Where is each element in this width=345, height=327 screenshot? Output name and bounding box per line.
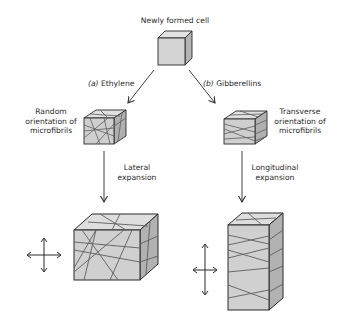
longitudinal-expansion-label: Longitudinal expansion [246, 163, 304, 182]
branch-a-prefix: (a) [88, 79, 99, 88]
diagram-canvas: Newly formed cell (a) Ethylene (b) Gibbe… [0, 0, 345, 327]
orientation-a-line-1: Random [20, 107, 82, 117]
orientation-a-line-3: microfibrils [20, 126, 82, 136]
newly-formed-cell-cube [158, 31, 192, 65]
orientation-b-line-2: orientation of [268, 117, 332, 127]
branch-b-treatment: Gibberellins [216, 79, 261, 88]
transverse-orientation-label: Transverse orientation of microfibrils [268, 107, 332, 136]
ethylene-branch-label: (a) Ethylene [88, 79, 134, 89]
orientation-b-line-1: Transverse [268, 107, 332, 117]
four-way-growth-arrows-icon [27, 238, 61, 272]
orientation-a-line-2: orientation of [20, 117, 82, 127]
laterally-expanded-cell [74, 214, 158, 280]
orientation-b-line-3: microfibrils [268, 126, 332, 136]
expansion-b-line-2: expansion [246, 173, 304, 183]
expansion-a-line-2: expansion [113, 173, 161, 183]
branch-b-prefix: (b) [203, 79, 214, 88]
longitudinally-expanded-cell [228, 213, 283, 310]
vertical-growth-arrows-icon [193, 244, 217, 295]
expansion-b-line-1: Longitudinal [246, 163, 304, 173]
transverse-microfibril-cube [224, 111, 267, 144]
lateral-expansion-label: Lateral expansion [113, 163, 161, 182]
newly-formed-cell-label: Newly formed cell [130, 16, 220, 26]
gibberellins-branch-label: (b) Gibberellins [203, 79, 261, 89]
random-orientation-label: Random orientation of microfibrils [20, 107, 82, 136]
random-microfibril-cube [84, 110, 126, 144]
branch-a-treatment: Ethylene [101, 79, 134, 88]
expansion-a-line-1: Lateral [113, 163, 161, 173]
